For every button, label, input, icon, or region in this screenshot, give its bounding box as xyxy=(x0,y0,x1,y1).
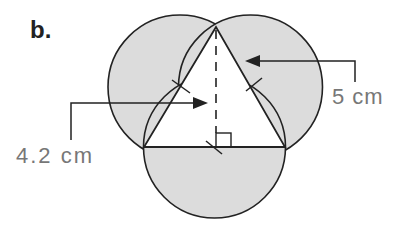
height-label: 4.2 cm xyxy=(16,143,94,169)
part-label: b. xyxy=(30,16,51,44)
figure-svg xyxy=(0,0,413,226)
diagram: b. 5 cm 4.2 cm xyxy=(0,0,413,226)
side-length-label: 5 cm xyxy=(332,84,384,110)
